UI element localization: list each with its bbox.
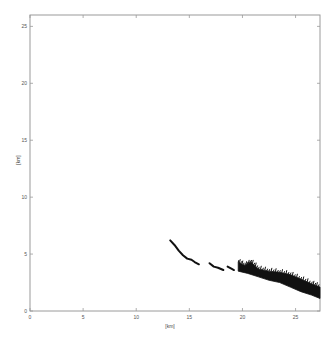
segment-2 bbox=[210, 263, 224, 270]
axis-ticks bbox=[30, 15, 320, 311]
y-tick-label: 0 bbox=[24, 308, 27, 314]
x-tick-label: 25 bbox=[293, 314, 299, 320]
y-tick-label: 25 bbox=[21, 23, 27, 29]
x-tick-label: 5 bbox=[82, 314, 85, 320]
x-tick-label: 15 bbox=[187, 314, 193, 320]
segment-1 bbox=[170, 240, 199, 264]
y-tick-label: 10 bbox=[21, 194, 27, 200]
x-tick-label: 10 bbox=[133, 314, 139, 320]
data-series bbox=[170, 240, 320, 298]
chart: 05101520250510152025 [km] [km] bbox=[0, 0, 336, 342]
segment-3 bbox=[228, 267, 234, 270]
x-tick-label: 0 bbox=[29, 314, 32, 320]
x-tick-label: 20 bbox=[240, 314, 246, 320]
y-tick-label: 5 bbox=[24, 251, 27, 257]
y-tick-label: 20 bbox=[21, 80, 27, 86]
x-axis-label: [km] bbox=[165, 323, 175, 329]
plot-frame bbox=[30, 15, 320, 311]
y-axis-label: [km] bbox=[15, 155, 21, 165]
y-tick-label: 15 bbox=[21, 137, 27, 143]
